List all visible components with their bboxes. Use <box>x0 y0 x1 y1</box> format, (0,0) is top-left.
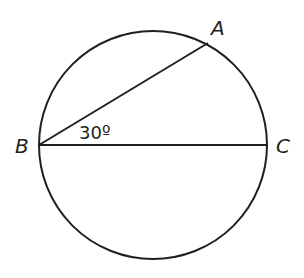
point-label-a: A <box>209 16 225 40</box>
chord-ba <box>39 43 208 145</box>
point-label-b: B <box>15 134 29 158</box>
circle-diagram: A B C 30º <box>0 0 304 278</box>
angle-label-30: 30º <box>79 122 110 143</box>
point-label-c: C <box>276 134 290 158</box>
